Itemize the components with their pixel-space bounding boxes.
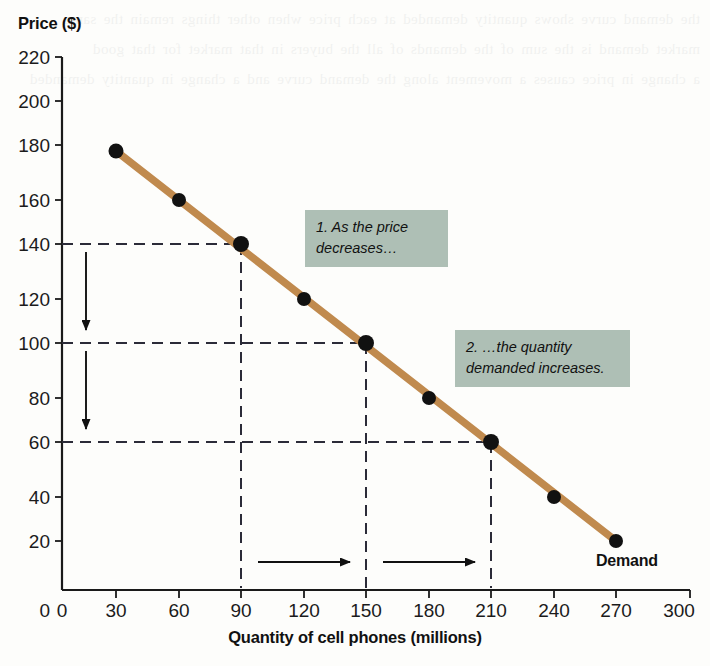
data-point-240-40 (547, 490, 561, 504)
guide-lines (62, 244, 491, 588)
annotation-price-decreases: 1. As the price decreases… (305, 210, 448, 267)
data-point-30-180 (109, 144, 124, 159)
demand-curve-label: Demand (596, 552, 658, 570)
annotation-quantity-increases: 2. …the quantity demanded increases. (455, 330, 630, 387)
data-point-270-20 (609, 534, 623, 548)
data-point-60-160 (172, 193, 186, 207)
data-point-120-120 (297, 292, 311, 306)
data-point-180-80 (422, 391, 436, 405)
demand-curve-figure: Price ($) Quantity of cell phones (milli… (0, 0, 710, 666)
data-point-150-100 (358, 335, 374, 351)
x-axis-ticks (116, 590, 690, 598)
data-point-90-140 (233, 236, 249, 252)
data-point-210-60 (483, 434, 499, 450)
